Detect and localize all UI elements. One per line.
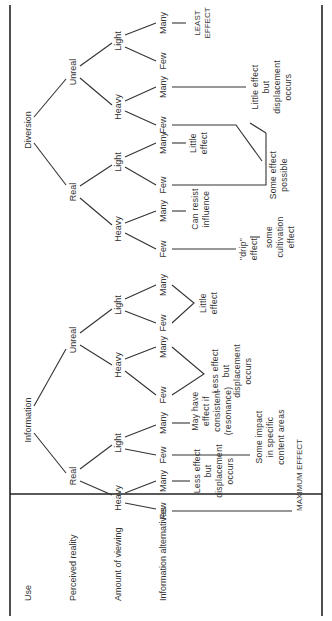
svg-text:Little: Little bbox=[198, 293, 208, 313]
maximum-effect-label: MAXIMUM EFFECT bbox=[295, 439, 304, 511]
effect-some-cultivation: some cultivation effect bbox=[264, 216, 296, 257]
svg-text:cultivation: cultivation bbox=[275, 216, 285, 257]
svg-text:possible: possible bbox=[279, 158, 289, 192]
leaf-info-unreal-light-few: Few bbox=[158, 314, 168, 332]
svg-text:but: but bbox=[261, 80, 271, 93]
svg-text:content areas: content areas bbox=[276, 409, 286, 464]
node-info-unreal-heavy: Heavy bbox=[113, 352, 123, 378]
leaf-div-real-heavy-few: Few bbox=[158, 240, 168, 258]
effect-info-unreal-heavy: Less effect but displacement occurs bbox=[210, 344, 253, 398]
effect-info-real-light-many: May have effect if consistent (resonance… bbox=[190, 387, 233, 436]
tree-diagram-svg: Use Perceived reality Amount of viewing … bbox=[0, 0, 332, 621]
leaf-info-unreal-heavy-many: Many bbox=[158, 336, 168, 359]
svg-text:Less effect: Less effect bbox=[210, 349, 220, 394]
svg-text:displacement: displacement bbox=[272, 60, 282, 114]
svg-text:in specific: in specific bbox=[265, 416, 275, 457]
effect-info-real-heavy-many: Less effect but displacement occurs bbox=[192, 444, 235, 498]
effect-div-unreal-heavy-many: Little effect but displacement occurs bbox=[250, 60, 293, 114]
svg-text:effect if: effect if bbox=[201, 396, 211, 426]
leaf-info-real-light-few: Few bbox=[158, 446, 168, 464]
node-div-unreal: Unreal bbox=[68, 59, 78, 86]
node-div-real-light: Light bbox=[113, 152, 123, 172]
svg-text:occurs: occurs bbox=[283, 74, 293, 101]
node-div-real-heavy: Heavy bbox=[113, 216, 123, 242]
node-info-real: Real bbox=[68, 467, 78, 486]
leaf-div-real-light-many: Many bbox=[158, 132, 168, 155]
effect-div-real-light-many: Little effect bbox=[188, 131, 209, 154]
effect-info-real-light-few: Some impact in specific content areas bbox=[254, 409, 286, 464]
svg-text:Little effect: Little effect bbox=[250, 64, 260, 109]
row-label-perceived-reality: Perceived reality bbox=[68, 534, 78, 601]
svg-text:effect: effect bbox=[209, 291, 219, 314]
svg-text:"drip": "drip" bbox=[238, 238, 248, 260]
node-div-unreal-heavy: Heavy bbox=[113, 94, 123, 120]
svg-text:but: but bbox=[203, 464, 213, 477]
row-label-use: Use bbox=[23, 585, 33, 601]
svg-text:effect: effect bbox=[249, 237, 259, 260]
svg-text:May have: May have bbox=[190, 391, 200, 430]
node-info-unreal: Unreal bbox=[68, 327, 78, 354]
node-diversion: Diversion bbox=[23, 111, 33, 149]
node-information: Information bbox=[23, 397, 33, 442]
leaf-info-unreal-light-many: Many bbox=[158, 274, 168, 297]
effect-some-effect-possible: Some effect possible bbox=[268, 150, 289, 199]
svg-text:effect: effect bbox=[286, 225, 296, 248]
media-use-effects-tree-diagram: Use Perceived reality Amount of viewing … bbox=[0, 0, 332, 621]
svg-text:but: but bbox=[221, 364, 231, 377]
least-effect-label: LEAST EFFECT bbox=[193, 7, 212, 38]
svg-text:Some impact: Some impact bbox=[254, 410, 264, 463]
svg-text:Little: Little bbox=[188, 133, 198, 153]
svg-text:some: some bbox=[264, 226, 274, 248]
node-div-unreal-light: Light bbox=[113, 31, 123, 51]
node-info-real-heavy: Heavy bbox=[113, 485, 123, 511]
svg-text:influence: influence bbox=[201, 191, 211, 228]
node-info-real-light: Light bbox=[113, 433, 123, 453]
leaf-div-unreal-light-many: Many bbox=[158, 12, 168, 35]
leaf-div-unreal-heavy-many: Many bbox=[158, 76, 168, 99]
leaf-div-real-light-few: Few bbox=[158, 176, 168, 194]
svg-text:occurs: occurs bbox=[225, 458, 235, 485]
svg-text:effect: effect bbox=[199, 131, 209, 154]
row-label-amount-of-viewing: Amount of viewing bbox=[113, 527, 123, 601]
leaf-info-real-light-many: Many bbox=[158, 412, 168, 435]
svg-text:EFFECT: EFFECT bbox=[203, 7, 212, 38]
leaf-info-real-heavy-few: Few bbox=[158, 502, 168, 520]
svg-text:Less effect: Less effect bbox=[192, 449, 202, 494]
svg-text:Some effect: Some effect bbox=[268, 150, 278, 199]
effect-info-unreal-light: Little effect bbox=[198, 291, 219, 314]
svg-text:Can resist: Can resist bbox=[190, 188, 200, 230]
leaf-info-unreal-heavy-few: Few bbox=[158, 386, 168, 404]
node-info-unreal-light: Light bbox=[113, 295, 123, 315]
leaf-info-real-heavy-many: Many bbox=[158, 470, 168, 493]
leaf-div-real-heavy-many: Many bbox=[158, 200, 168, 223]
svg-text:occurs: occurs bbox=[243, 358, 253, 385]
svg-text:LEAST: LEAST bbox=[193, 10, 202, 35]
svg-text:displacement: displacement bbox=[214, 444, 224, 498]
svg-text:displacement: displacement bbox=[232, 344, 242, 398]
svg-text:consistent: consistent bbox=[212, 390, 222, 432]
leaf-div-unreal-light-few: Few bbox=[158, 52, 168, 70]
node-div-real: Real bbox=[68, 183, 78, 202]
effect-div-real-heavy-many: Can resist influence bbox=[190, 188, 211, 230]
row-label-information-alternatives: Information alternatives bbox=[158, 507, 168, 601]
leaf-div-unreal-heavy-few: Few bbox=[158, 116, 168, 134]
effect-div-real-heavy-few-drip: "drip" effect bbox=[238, 237, 259, 260]
